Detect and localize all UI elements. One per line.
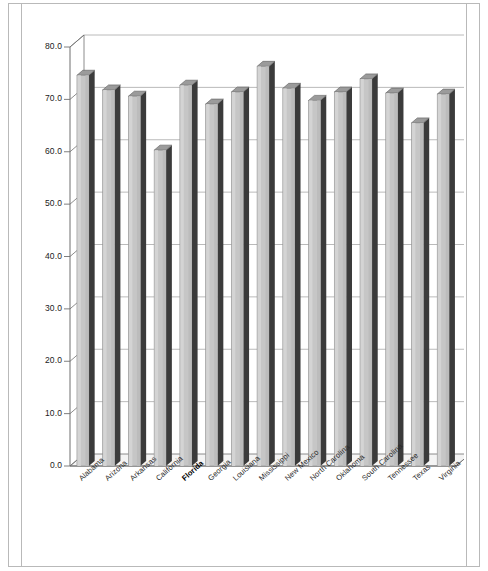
- bar: [128, 91, 146, 466]
- bar: [206, 99, 224, 466]
- chart-page: 0.010.020.030.040.050.060.070.080.0Alaba…: [0, 0, 488, 571]
- bar: [360, 74, 378, 466]
- y-axis-tick-label: 40.0: [22, 251, 62, 261]
- bar: [411, 118, 429, 466]
- y-axis-tick-label: 50.0: [22, 198, 62, 208]
- y-axis-tick-label: 80.0: [22, 41, 62, 51]
- bar: [154, 145, 172, 466]
- bar: [231, 87, 249, 466]
- bar: [77, 70, 95, 466]
- bar: [334, 87, 352, 466]
- bar: [309, 95, 327, 466]
- y-axis-tick-label: 0.0: [22, 460, 62, 470]
- bar: [257, 61, 275, 466]
- y-axis-tick-label: 70.0: [22, 93, 62, 103]
- bar: [437, 89, 455, 466]
- y-axis-tick-label: 20.0: [22, 355, 62, 365]
- bar: [180, 80, 198, 466]
- chart-plot-area: 0.010.020.030.040.050.060.070.080.0Alaba…: [24, 6, 464, 526]
- bar: [103, 85, 121, 466]
- bar: [386, 88, 404, 466]
- y-axis-tick-label: 60.0: [22, 146, 62, 156]
- bar: [283, 83, 301, 466]
- y-axis-tick-label: 10.0: [22, 408, 62, 418]
- y-axis-tick-label: 30.0: [22, 303, 62, 313]
